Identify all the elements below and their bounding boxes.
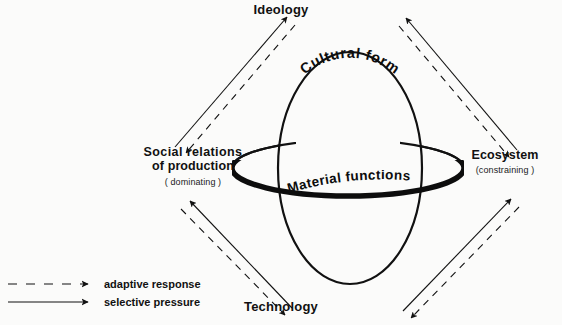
- edge-social-ideology: [175, 17, 295, 153]
- node-label-social-relations: Social relations of production ( dominat…: [118, 145, 268, 187]
- node-label-ecosystem: Ecosystem (constraining ): [452, 148, 558, 176]
- diagram-canvas: Cultural form Material functions Ideolog…: [0, 0, 562, 325]
- arrow-selective-pressure-to-social-relations: [190, 201, 292, 308]
- node-label-ideology: Ideology: [0, 3, 562, 18]
- arrow-selective-pressure-to-ideology-right: [406, 18, 517, 150]
- node-label-social-qualifier: ( dominating ): [118, 177, 268, 187]
- arrow-adaptive-response-to-social-relations: [186, 25, 295, 153]
- node-label-ecosystem-text: Ecosystem: [452, 148, 558, 162]
- legend-label-adaptive-response: adaptive response: [104, 278, 201, 290]
- node-label-social-line1: Social relations: [118, 145, 268, 159]
- node-label-social-line2: of production: [118, 159, 268, 173]
- node-label-ideology-text: Ideology: [253, 2, 308, 17]
- arrow-selective-pressure-to-ideology: [175, 17, 287, 147]
- node-label-technology: Technology: [0, 300, 562, 315]
- node-label-technology-text: Technology: [244, 299, 318, 314]
- legend-label-selective-pressure: selective pressure: [104, 296, 200, 308]
- node-label-ecosystem-qualifier: (constraining ): [452, 165, 558, 175]
- arrow-selective-pressure-to-ecosystem: [403, 199, 511, 311]
